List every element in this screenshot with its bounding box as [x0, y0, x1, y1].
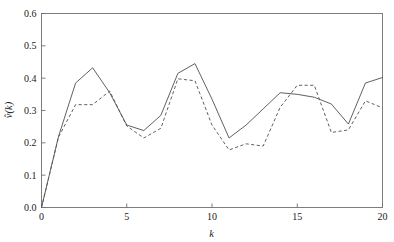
- line-chart: 0.00.10.20.30.40.50.6 05101520 k v̂(k): [0, 0, 394, 242]
- y-tick-label: 0.2: [24, 137, 37, 148]
- y-tick-label: 0.4: [24, 73, 37, 84]
- y-tick-label: 0.3: [24, 105, 37, 116]
- y-axis-label-group: v̂(k): [3, 101, 15, 118]
- x-tick-label: 10: [207, 211, 217, 222]
- x-tick-label: 0: [39, 211, 44, 222]
- y-tick-label: 0.0: [24, 202, 37, 213]
- y-tick-label: 0.1: [24, 170, 37, 181]
- x-axis-label: k: [209, 228, 214, 239]
- x-tick-label: 5: [124, 211, 129, 222]
- y-tick-label: 0.5: [24, 40, 37, 51]
- y-tick-label: 0.6: [24, 8, 37, 19]
- figure-container: 0.00.10.20.30.40.50.6 05101520 k v̂(k): [0, 0, 394, 242]
- y-axis-label: v̂(k): [3, 101, 15, 118]
- x-tick-label: 20: [378, 211, 388, 222]
- chart-background: [0, 0, 394, 242]
- x-tick-label: 15: [292, 211, 302, 222]
